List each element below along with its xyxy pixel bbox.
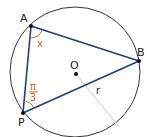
circle-triangle-diagram: A B P O r x π 3	[0, 0, 147, 137]
label-B: B	[137, 46, 145, 59]
point-O	[74, 72, 78, 76]
radius-line	[76, 74, 116, 123]
angle-arc-A	[30, 30, 43, 38]
angle-label-pi-num: π	[30, 81, 36, 92]
angle-label-pi-den: 3	[30, 92, 36, 103]
angle-label-x: x	[37, 38, 43, 49]
label-P: P	[18, 116, 25, 129]
point-B	[137, 59, 141, 63]
label-r: r	[96, 85, 101, 96]
label-A: A	[20, 12, 28, 25]
point-P	[21, 111, 25, 115]
label-O: O	[70, 59, 79, 72]
point-A	[29, 24, 33, 28]
